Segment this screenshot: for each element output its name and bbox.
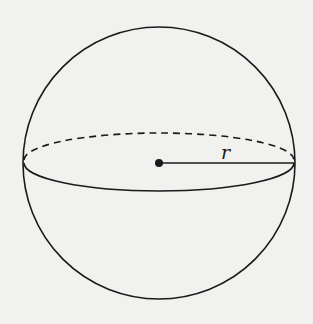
radius-label: r bbox=[221, 141, 232, 163]
center-point bbox=[155, 159, 163, 167]
sphere-diagram: r bbox=[0, 0, 313, 324]
equator-front-solid bbox=[24, 163, 294, 191]
equator-back-dashed bbox=[24, 133, 294, 160]
